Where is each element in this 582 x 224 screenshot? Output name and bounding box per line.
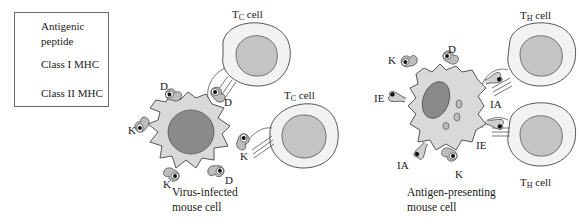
antigen-presenting-cell — [408, 64, 486, 150]
mhc-restriction-diagram: Antigenic peptide Class I MHC Class II M… — [0, 0, 582, 224]
right-caption-line1: Antigen-presenting — [407, 186, 496, 199]
mhc-label-ia-1: IA — [490, 98, 502, 110]
legend: Antigenic peptide Class I MHC Class II M… — [14, 12, 109, 107]
tc-cell-top-label: TC cell — [232, 8, 263, 24]
mhc-label-k-2: K — [240, 150, 248, 162]
th-cell-bottom — [508, 103, 576, 166]
th-cell-top — [508, 23, 576, 86]
mhc-label-k-r2: K — [455, 168, 463, 180]
mhc-label-d-2: D — [224, 96, 232, 108]
th-cell-bottom-label: TH cell — [520, 176, 551, 192]
virus-infected-cell — [148, 92, 230, 168]
mhc-label-k-3: K — [163, 178, 171, 190]
legend-label-peptide-1: Antigenic — [41, 20, 84, 33]
mhc-label-ie-1: IE — [374, 92, 384, 104]
mhc-label-ie-2: IE — [476, 139, 486, 151]
th-cell-top-label: TH cell — [520, 9, 551, 25]
mhc-label-k-1: K — [128, 124, 136, 136]
mhc-label-d-3: D — [225, 174, 233, 186]
left-caption-line1: Virus-infected — [172, 186, 238, 199]
mhc-label-d-r1: D — [448, 43, 456, 55]
tc-cell-right-label: TC cell — [284, 89, 315, 105]
mhc-label-k-r1: K — [388, 54, 396, 66]
right-caption-line2: mouse cell — [407, 201, 457, 214]
left-caption-line2: mouse cell — [172, 201, 222, 214]
legend-label-peptide-2: peptide — [41, 35, 73, 48]
mhc-label-d-1: D — [160, 80, 168, 92]
tc-cell-right — [270, 104, 338, 168]
legend-label-class-ii: Class II MHC — [41, 87, 103, 100]
legend-label-class-i: Class I MHC — [41, 58, 99, 71]
mhc-label-ia-2: IA — [397, 159, 409, 171]
tc-cell-top — [223, 23, 291, 86]
